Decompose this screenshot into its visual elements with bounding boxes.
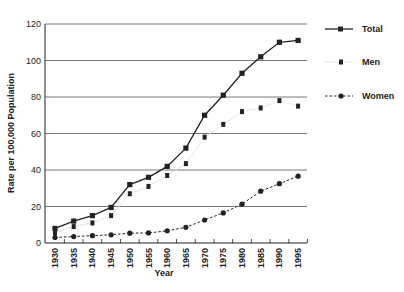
legend: Total Men Women (325, 24, 394, 101)
square-marker-icon (90, 220, 94, 225)
square-marker-icon (52, 226, 57, 231)
square-marker-icon (277, 98, 281, 103)
x-tick-label: 1950 (125, 248, 135, 268)
y-axis-title: Rate per 100,000 Population (6, 73, 16, 193)
x-tick-label: 1980 (237, 248, 247, 268)
square-marker-icon (240, 109, 244, 114)
legend-item-men: Men (325, 57, 380, 67)
circle-marker-icon (71, 234, 76, 239)
square-marker-icon (239, 71, 244, 76)
legend-label-women: Women (362, 91, 394, 101)
y-tick-label: 120 (26, 19, 41, 29)
circle-marker-icon (221, 210, 226, 215)
circle-marker-icon (202, 217, 207, 222)
y-tick-label: 100 (26, 56, 41, 66)
circle-marker-icon (127, 231, 132, 236)
square-marker-icon (202, 113, 207, 118)
x-tick-label: 1955 (144, 248, 154, 268)
x-tick-label: 1975 (218, 248, 228, 268)
line-chart: 020406080100120 193019351940194519501955… (0, 0, 404, 292)
legend-item-women: Women (325, 91, 394, 101)
legend-item-total: Total (325, 24, 383, 34)
square-marker-icon (127, 182, 132, 187)
square-marker-icon (339, 60, 343, 65)
square-marker-icon (109, 213, 113, 218)
circle-marker-icon (338, 93, 343, 98)
x-tick-label: 1960 (162, 248, 172, 268)
circle-marker-icon (277, 181, 282, 186)
x-tick-label: 1935 (69, 248, 79, 268)
y-tick-label: 60 (31, 129, 41, 139)
y-tick-label: 80 (31, 92, 41, 102)
square-marker-icon (128, 191, 132, 196)
circle-marker-icon (239, 202, 244, 207)
legend-label-total: Total (362, 24, 383, 34)
square-marker-icon (184, 161, 188, 166)
y-tick-label: 40 (31, 165, 41, 175)
square-marker-icon (72, 224, 76, 229)
square-marker-icon (296, 104, 300, 109)
square-marker-icon (183, 146, 188, 151)
x-tick-label: 1930 (50, 248, 60, 268)
circle-marker-icon (183, 225, 188, 230)
y-tick-label: 0 (36, 238, 41, 248)
square-marker-icon (147, 184, 151, 189)
y-axis-ticks: 020406080100120 (26, 19, 41, 248)
legend-label-men: Men (362, 57, 380, 67)
square-marker-icon (221, 93, 226, 98)
circle-marker-icon (109, 232, 114, 237)
x-tick-label: 1965 (181, 248, 191, 268)
square-marker-icon (259, 105, 263, 110)
circle-marker-icon (258, 189, 263, 194)
square-marker-icon (53, 230, 57, 235)
x-tick-label: 1940 (87, 248, 97, 268)
y-tick-label: 20 (31, 202, 41, 212)
series-line (55, 40, 298, 228)
square-marker-icon (165, 173, 169, 178)
chart-canvas: 020406080100120 193019351940194519501955… (0, 0, 404, 292)
circle-marker-icon (52, 235, 57, 240)
circle-marker-icon (296, 174, 301, 179)
square-marker-icon (277, 40, 282, 45)
circle-marker-icon (90, 233, 95, 238)
circle-marker-icon (146, 230, 151, 235)
square-marker-icon (203, 135, 207, 140)
x-tick-label: 1970 (200, 248, 210, 268)
x-axis-title: Year (154, 268, 174, 278)
square-marker-icon (258, 54, 263, 59)
data-series (52, 38, 300, 240)
square-marker-icon (338, 27, 343, 32)
square-marker-icon (109, 205, 114, 210)
square-marker-icon (146, 175, 151, 180)
circle-marker-icon (165, 228, 170, 233)
x-tick-label: 1995 (293, 248, 303, 268)
square-marker-icon (165, 164, 170, 169)
x-tick-label: 1945 (106, 248, 116, 268)
series-total (52, 38, 300, 231)
square-marker-icon (71, 219, 76, 224)
x-tick-label: 1990 (274, 248, 284, 268)
square-marker-icon (90, 213, 95, 218)
square-marker-icon (296, 38, 301, 43)
square-marker-icon (221, 122, 225, 127)
x-tick-label: 1985 (256, 248, 266, 268)
